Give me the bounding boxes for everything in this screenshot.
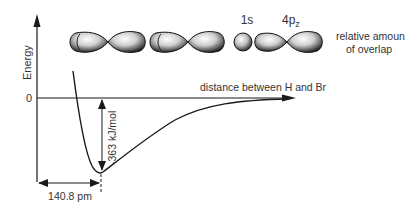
s-orbital-icon [150,32,188,52]
4pz-orbital-front-lobe-icon [287,32,322,53]
overlap-label-line1: relative amoun [336,30,405,42]
orbital-stage-far-apart [70,32,145,53]
p-orbital-lobe-icon [108,32,145,53]
overlap-label-line2: of overlap [346,43,392,55]
orbital-stage-bonded [234,32,322,53]
p-orbital-lobe-icon [188,32,224,53]
4pz-orbital-back-lobe-icon [255,33,287,51]
orbital-stage-approaching [150,32,224,53]
bond-length-label: 140.8 pm [48,190,92,202]
x-axis-label: distance between H and Br [200,81,327,93]
s-orbital-icon [70,32,108,52]
4pz-label: 4pz [282,13,300,29]
y-axis-label: Energy [21,45,33,80]
zero-label: 0 [26,92,32,104]
1s-label: 1s [241,13,254,27]
bond-energy-label: -363 kJ/mol [106,111,118,165]
energy-diagram: Energy 0 distance between H and Br -363 … [0,0,418,215]
1s-orbital-icon [234,33,252,51]
y-axis-arrow-icon [34,14,41,27]
x-axis-arrow-icon [282,95,296,102]
